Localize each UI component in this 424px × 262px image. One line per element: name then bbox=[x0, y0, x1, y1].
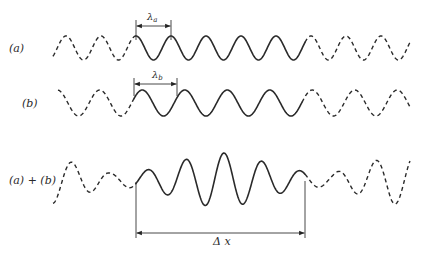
lambda-a-dimension: λa bbox=[136, 11, 171, 40]
wave-b-dashed-left bbox=[58, 90, 134, 116]
wave-b-solid bbox=[134, 90, 302, 116]
lambda-a-label: λa bbox=[146, 11, 158, 24]
delta-x-dimension: Δ x bbox=[136, 181, 305, 248]
wave-sum bbox=[53, 153, 410, 205]
wave-sum-dashed-left bbox=[53, 162, 136, 203]
wave-packet-diagram: (a) (b) (a) + (b) λa λb Δ x bbox=[0, 0, 424, 262]
lambda-b-label: λb bbox=[151, 69, 163, 82]
delta-x-label: Δ x bbox=[212, 235, 231, 248]
lambda-b-dimension: λb bbox=[134, 69, 177, 96]
wave-b bbox=[58, 90, 410, 116]
wave-a bbox=[53, 36, 410, 60]
wave-b-dashed-right bbox=[302, 90, 410, 116]
wave-a-dashed-left bbox=[53, 36, 136, 60]
label-wave-b: (b) bbox=[22, 97, 38, 110]
wave-a-solid bbox=[136, 36, 305, 60]
label-wave-sum: (a) + (b) bbox=[9, 174, 56, 187]
wave-sum-solid-packet bbox=[136, 153, 305, 205]
wave-sum-dashed-right bbox=[305, 160, 410, 204]
label-wave-a: (a) bbox=[9, 42, 24, 55]
wave-a-dashed-right bbox=[305, 36, 410, 60]
